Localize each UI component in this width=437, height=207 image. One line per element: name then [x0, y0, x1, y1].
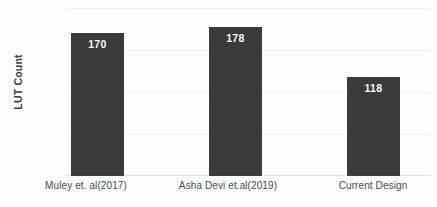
bar-value-label: 118: [347, 82, 400, 94]
gridline-200: [66, 8, 431, 9]
x-axis-label-muley-2017: Muley et. al(2017): [31, 180, 141, 191]
y-axis-title: LUT Count: [12, 42, 24, 122]
bar-asha-devi-2019: 178: [209, 27, 262, 177]
bar-value-label: 178: [209, 32, 262, 44]
bar-value-label: 170: [71, 38, 124, 50]
bar-current-design: 118: [347, 77, 400, 176]
bar-muley-2017: 170: [71, 33, 124, 176]
plot-area: 170 178 118: [66, 8, 431, 176]
bar-chart: LUT Count 200 150 100 50 0 170 178 118 M…: [0, 0, 437, 207]
x-axis-label-asha-devi-2019: Asha Devi et.al(2019): [163, 180, 293, 191]
x-axis-label-current-design: Current Design: [318, 180, 428, 191]
